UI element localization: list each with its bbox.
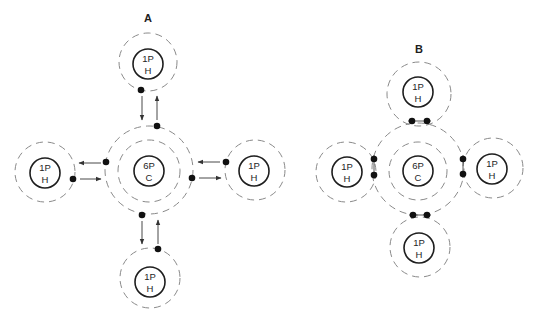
carbon-symbol-label: C <box>415 172 422 183</box>
methane-bonding-diagram: A 6P C 1P H 1P H <box>0 0 538 323</box>
shared-electron <box>424 212 431 219</box>
hydrogen-proton-label: 1P <box>486 158 498 169</box>
shared-electron-pair-bottom <box>409 212 431 219</box>
hydrogen-electron <box>155 246 162 253</box>
diagram-b-title: B <box>415 43 423 55</box>
hydrogen-electron <box>70 176 77 183</box>
hydrogen-atom-a-right: 1P H <box>223 140 285 200</box>
hydrogen-proton-label: 1P <box>248 160 260 171</box>
hydrogen-atom-a-left: 1P H <box>15 142 76 202</box>
hydrogen-electron <box>138 87 145 94</box>
shared-electron-pair-right <box>460 155 467 178</box>
hydrogen-atom-b-bottom: 1P H <box>390 217 450 277</box>
shared-electron <box>460 156 467 163</box>
diagram-a-title: A <box>144 12 152 24</box>
hydrogen-symbol-label: H <box>416 249 423 260</box>
hydrogen-symbol-label: H <box>489 170 496 181</box>
shared-electron <box>371 156 378 163</box>
shared-electron <box>424 118 431 125</box>
hydrogen-proton-label: 1P <box>144 271 156 282</box>
shared-electron <box>371 172 378 179</box>
carbon-electron-top <box>154 123 161 130</box>
diagram-a: A 6P C 1P H 1P H <box>15 12 285 308</box>
hydrogen-proton-label: 1P <box>412 81 424 92</box>
hydrogen-proton-label: 1P <box>413 237 425 248</box>
hydrogen-symbol-label: H <box>145 65 152 76</box>
hydrogen-proton-label: 1P <box>142 53 154 64</box>
hydrogen-atom-b-left: 1P H <box>316 142 376 202</box>
hydrogen-symbol-label: H <box>147 283 154 294</box>
shared-electron <box>410 212 417 219</box>
carbon-electron-left <box>103 159 110 166</box>
hydrogen-atom-a-top: 1P H <box>119 33 177 93</box>
hydrogen-symbol-label: H <box>42 174 49 185</box>
hydrogen-proton-label: 1P <box>39 162 51 173</box>
carbon-proton-label: 6P <box>412 160 424 171</box>
hydrogen-symbol-label: H <box>415 93 422 104</box>
carbon-atom-b: 6P C <box>372 123 464 215</box>
hydrogen-atom-a-bottom: 1P H <box>120 246 180 308</box>
hydrogen-electron <box>223 159 230 166</box>
carbon-atom-a: 6P C <box>103 123 196 219</box>
shared-electron <box>409 118 416 125</box>
shared-electron <box>460 171 467 178</box>
carbon-symbol-label: C <box>146 172 153 183</box>
hydrogen-symbol-label: H <box>251 172 258 183</box>
carbon-proton-label: 6P <box>143 160 155 171</box>
carbon-electron-right <box>189 175 196 182</box>
carbon-electron-bottom <box>139 212 146 219</box>
hydrogen-symbol-label: H <box>344 173 351 184</box>
hydrogen-atom-b-top: 1P H <box>387 62 451 126</box>
hydrogen-proton-label: 1P <box>341 161 353 172</box>
hydrogen-atom-b-right: 1P H <box>463 138 523 198</box>
diagram-b: B 6P C 1P H 1P H <box>316 43 523 277</box>
